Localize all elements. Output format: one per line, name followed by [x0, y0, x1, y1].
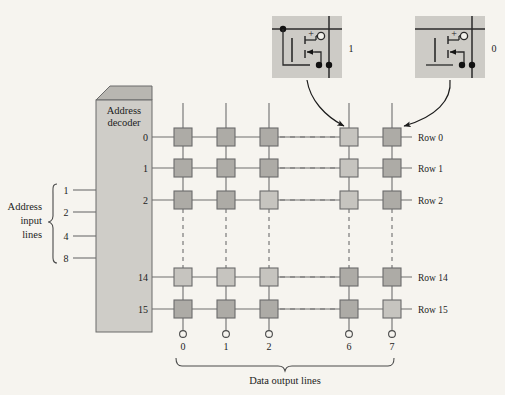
address-caption-line3: lines	[22, 229, 42, 240]
inset-junction-dot	[459, 62, 465, 68]
memory-cell[interactable]	[174, 268, 192, 286]
output-terminal[interactable]	[223, 331, 230, 338]
decoder-output-label: 15	[138, 304, 148, 315]
inset-zero-pointer-arrow	[404, 80, 450, 126]
memory-cell[interactable]	[217, 300, 235, 318]
address-caption-line2: input	[20, 215, 42, 226]
memory-array-diagram: Address decoder 0 1 2 14 15 1 2 4 8 Addr	[0, 0, 505, 395]
address-input-brace	[48, 184, 57, 263]
row-labels: Row 0 Row 1 Row 2 Row 14 Row 15	[418, 133, 448, 315]
inset-junction-dot	[316, 62, 322, 68]
address-caption-line1: Address	[8, 201, 42, 212]
inset-junction-dot	[469, 62, 475, 68]
figure-canvas: Address decoder 0 1 2 14 15 1 2 4 8 Addr	[0, 0, 505, 395]
memory-cell-matrix	[174, 128, 401, 318]
row-label: Row 0	[418, 133, 443, 143]
data-output-terminals	[180, 331, 396, 338]
decoder-output-label: 14	[138, 272, 148, 283]
data-output-caption: Data output lines	[249, 375, 321, 386]
memory-cell[interactable]	[217, 159, 235, 177]
memory-cell[interactable]	[174, 159, 192, 177]
memory-cell[interactable]	[340, 191, 358, 209]
memory-cell[interactable]	[383, 268, 401, 286]
memory-cell[interactable]	[217, 191, 235, 209]
memory-cell[interactable]	[340, 268, 358, 286]
memory-cell[interactable]	[383, 159, 401, 177]
memory-cell[interactable]	[260, 159, 278, 177]
row-label: Row 15	[418, 305, 448, 315]
decoder-title-line2: decoder	[107, 117, 141, 128]
output-index-label: 0	[181, 341, 186, 352]
memory-cell[interactable]	[260, 128, 278, 146]
address-weight-label: 1	[64, 185, 69, 196]
address-decoder-block[interactable]: Address decoder	[96, 86, 152, 332]
address-input-lines	[48, 184, 96, 263]
memory-cell[interactable]	[340, 159, 358, 177]
output-index-label: 7	[390, 341, 395, 352]
row-label: Row 2	[418, 196, 443, 206]
decoder-top-face	[96, 86, 152, 100]
memory-cell[interactable]	[340, 300, 358, 318]
inset-cell-storing-zero[interactable]: + 0	[415, 16, 497, 78]
memory-cell[interactable]	[260, 300, 278, 318]
inset-value-label: 1	[349, 43, 354, 54]
memory-cell[interactable]	[217, 128, 235, 146]
column-ellipsis-dashes	[183, 209, 392, 268]
memory-cell[interactable]	[260, 268, 278, 286]
output-index-label: 6	[347, 341, 352, 352]
inset-cell-storing-one[interactable]: + 1	[272, 16, 354, 78]
inset-supply-terminal	[317, 32, 324, 39]
output-index-label: 2	[267, 341, 272, 352]
address-weight-label: 4	[64, 231, 69, 242]
inset-junction-dot	[326, 62, 332, 68]
output-terminal[interactable]	[266, 331, 273, 338]
row-ellipsis-dashes	[280, 137, 338, 309]
output-terminal[interactable]	[180, 331, 187, 338]
address-weight-label: 8	[64, 253, 69, 264]
memory-cell[interactable]	[383, 191, 401, 209]
decoder-output-label: 2	[143, 195, 148, 206]
memory-cell[interactable]	[174, 300, 192, 318]
address-input-caption: Address input lines	[8, 201, 42, 240]
decoder-output-label: 0	[143, 132, 148, 143]
memory-cell[interactable]	[383, 128, 401, 146]
output-terminal[interactable]	[346, 331, 353, 338]
row-label: Row 1	[418, 164, 443, 174]
inset-plus-sign: +	[308, 28, 314, 39]
memory-cell[interactable]	[217, 268, 235, 286]
memory-cell[interactable]	[340, 128, 358, 146]
address-weight-label: 2	[64, 207, 69, 218]
row-label: Row 14	[418, 273, 448, 283]
output-index-label: 1	[224, 341, 229, 352]
address-input-weight-labels: 1 2 4 8	[64, 185, 69, 264]
data-output-brace	[176, 358, 394, 371]
decoder-output-label: 1	[143, 163, 148, 174]
output-terminal[interactable]	[389, 331, 396, 338]
memory-cell[interactable]	[174, 128, 192, 146]
inset-supply-terminal	[460, 32, 467, 39]
decoder-title-line1: Address	[107, 105, 141, 116]
inset-one-pointer-arrow	[307, 80, 344, 126]
inset-plus-sign: +	[451, 28, 457, 39]
memory-cell[interactable]	[383, 300, 401, 318]
memory-cell[interactable]	[260, 191, 278, 209]
data-output-index-labels: 0 1 2 6 7	[181, 341, 395, 352]
inset-value-label: 0	[492, 43, 497, 54]
inset-background	[415, 16, 485, 78]
memory-cell[interactable]	[174, 191, 192, 209]
